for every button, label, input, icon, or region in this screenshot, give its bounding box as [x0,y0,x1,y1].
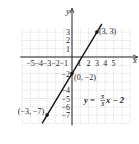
point-label: (0, −2) [74,73,96,82]
x-tick-label: 3 [95,59,99,68]
x-tick-label: 2 [87,59,91,68]
point-label: (3, 3) [99,27,117,36]
x-tick-label: −4 [35,59,44,68]
x-axis-label: x [132,55,137,65]
svg-text:5: 5 [101,94,104,100]
y-tick-label: 1 [66,45,70,54]
point-label: (−3, −7) [18,107,45,116]
data-point [45,113,49,117]
y-tick-label: −7 [61,111,70,120]
y-axis-label: y [65,6,70,16]
x-tick-label: −1 [59,59,68,68]
x-tick-label: −5 [26,59,35,68]
equation-label: y = 5 3 x − 2 [83,94,125,107]
x-tick-label: −3 [43,59,52,68]
x-tick-label: 5 [112,59,116,68]
x-tick-label: 4 [103,59,107,68]
coordinate-graph: −5−4−3−2−123451321−2−4−5−6−7 (3, 3)(0, −… [0,0,139,144]
x-tick-label: −2 [51,59,60,68]
svg-text:3: 3 [100,101,104,107]
svg-text:x − 2: x − 2 [105,95,125,105]
y-tick-label: −2 [61,70,70,79]
svg-text:y =: y = [83,95,95,105]
